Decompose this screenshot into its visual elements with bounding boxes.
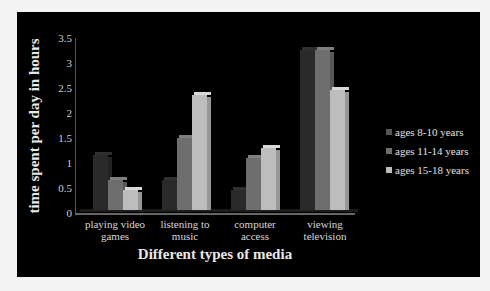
y-tick: 1: [48, 157, 72, 169]
bar: [261, 148, 276, 211]
x-category-label: computeraccess: [215, 218, 295, 242]
legend-swatch-icon: [386, 167, 392, 173]
y-tick: 0.5: [48, 182, 72, 194]
y-tick: 1.5: [48, 132, 72, 144]
bar: [177, 138, 192, 211]
bar: [192, 95, 207, 210]
x-category-label: viewingtelevision: [285, 218, 365, 242]
y-tick: 2.5: [48, 82, 72, 94]
legend: ages 8-10 yearsages 11-14 yearsages 15-1…: [386, 126, 469, 183]
bar: [315, 50, 330, 210]
bar: [330, 90, 345, 210]
x-category-label: playing videogames: [75, 218, 155, 242]
bar: [300, 50, 315, 210]
y-tick: 2: [48, 107, 72, 119]
bar: [93, 155, 108, 210]
legend-item: ages 8-10 years: [386, 126, 469, 138]
x-axis-line: [75, 213, 355, 215]
y-tick: 3: [48, 57, 72, 69]
legend-item: ages 11-14 years: [386, 145, 469, 157]
bar: [231, 190, 246, 210]
legend-label: ages 15-18 years: [395, 164, 469, 176]
bar: [123, 190, 138, 210]
y-tick: 3.5: [48, 32, 72, 44]
legend-swatch-icon: [386, 129, 392, 135]
y-axis-label: time spent per day in hours: [26, 38, 43, 213]
bar: [162, 180, 177, 210]
legend-label: ages 8-10 years: [395, 126, 463, 138]
y-axis-line: [75, 38, 76, 213]
y-tick: 0: [48, 207, 72, 219]
legend-swatch-icon: [386, 148, 392, 154]
legend-item: ages 15-18 years: [386, 164, 469, 176]
bar: [246, 158, 261, 211]
legend-label: ages 11-14 years: [395, 145, 469, 157]
bar: [108, 180, 123, 210]
x-axis-label: Different types of media: [138, 246, 292, 263]
x-category-label: listening tomusic: [145, 218, 225, 242]
